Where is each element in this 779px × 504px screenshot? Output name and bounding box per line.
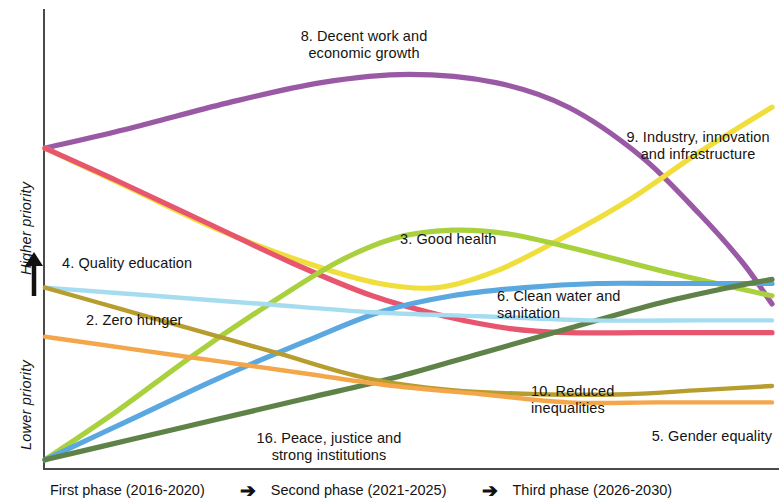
- priority-evolution-chart: Higher priority Lower priority 8. Decent…: [0, 0, 779, 504]
- label-reduced-inequalities: 10. Reduced inequalities: [531, 383, 614, 417]
- phase-arrow-icon-1: ➔: [231, 481, 265, 500]
- label-zero-hunger: 2. Zero hunger: [86, 312, 183, 329]
- x-axis-phase-strip: First phase (2016-2020) ➔ Second phase (…: [0, 476, 779, 504]
- phase-second-label: Second phase (2021-2025): [271, 482, 447, 498]
- label-gender-equality: 5. Gender equality: [508, 428, 772, 445]
- label-clean-water: 6. Clean water and sanitation: [497, 288, 621, 322]
- label-decent-work: 8. Decent work and economic growth: [264, 28, 464, 62]
- phase-third-label: Third phase (2026-2030): [513, 482, 673, 498]
- y-axis-lower-priority-label: Lower priority: [18, 360, 34, 450]
- label-industry-innovation: 9. Industry, innovation and infrastructu…: [608, 129, 779, 163]
- label-quality-education: 4. Quality education: [62, 255, 192, 272]
- phase-arrow-icon-2: ➔: [473, 481, 507, 500]
- phase-first-label: First phase (2016-2020): [50, 482, 205, 498]
- label-peace-justice: 16. Peace, justice and strong institutio…: [229, 430, 429, 464]
- label-good-health: 3. Good health: [400, 231, 497, 248]
- up-arrow-icon: [23, 250, 45, 298]
